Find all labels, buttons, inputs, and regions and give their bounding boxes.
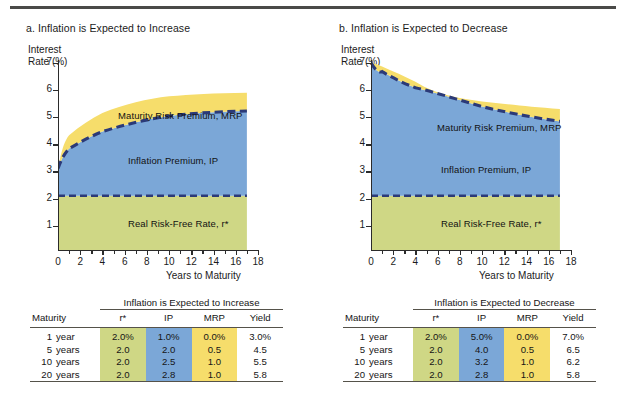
ylabel-3: 3 <box>38 164 52 175</box>
cell-mrp: 0.0% <box>192 328 238 344</box>
table-span-header-row: Inflation is Expected to Increase <box>30 297 283 310</box>
col-head-yield: Yield <box>550 310 596 326</box>
cell-yield: 5.5 <box>237 356 283 369</box>
panel-b-inflation-decrease: b. Inflation is Expected to Decrease Int… <box>313 0 626 419</box>
table-row: 5 years 2.0 2.0 0.5 4.5 <box>30 344 283 357</box>
cell-ip: 2.8 <box>146 369 192 382</box>
table-row: 1 year 2.0% 5.0% 0.0% 7.0% <box>343 328 596 344</box>
xlabel-18: 18 <box>252 256 263 267</box>
xtick-1 <box>69 250 70 254</box>
xtick-12 <box>191 250 192 255</box>
xtick-5 <box>114 250 115 254</box>
top-divider-rule <box>10 6 616 9</box>
panel-b-label-rf: Real Risk-Free Rate, r* <box>441 218 542 229</box>
cell-rstar: 2.0 <box>413 369 459 382</box>
xtick-9 <box>158 250 159 254</box>
xlabel-2: 2 <box>77 256 83 267</box>
panel-b-label-mrp: Maturity Risk Premium, MRP <box>437 122 562 133</box>
col-head-mrp: MRP <box>192 310 238 326</box>
table-row: 20 years 2.0 2.8 1.0 5.8 <box>343 369 596 382</box>
ytick-3 <box>53 171 58 172</box>
cell-maturity-unit: years <box>369 344 413 357</box>
cell-ip: 2.5 <box>146 356 192 369</box>
cell-yield: 7.0% <box>550 328 596 344</box>
ylabel-6: 6 <box>38 83 52 94</box>
ytick-4 <box>53 144 58 145</box>
xtick-13 <box>202 250 203 254</box>
ytick-6 <box>366 90 371 91</box>
ylabel-2: 2 <box>351 192 365 203</box>
ylabel-5: 5 <box>38 110 52 121</box>
xlabel-6: 6 <box>435 256 441 267</box>
xlabel-16: 16 <box>543 256 554 267</box>
cell-maturity-unit: years <box>56 344 100 357</box>
xlabel-12: 12 <box>499 256 510 267</box>
xlabel-12: 12 <box>186 256 197 267</box>
table-row: 5 years 2.0 4.0 0.5 6.5 <box>343 344 596 357</box>
ytick-4 <box>366 144 371 145</box>
xlabel-4: 4 <box>100 256 106 267</box>
col-head-yield: Yield <box>237 310 283 326</box>
xtick-4 <box>102 250 103 255</box>
xtick-17 <box>560 250 561 254</box>
cell-maturity-n: 1 <box>30 328 56 344</box>
yaxis-caption-line1: Interest <box>28 44 67 56</box>
cell-ip: 3.2 <box>459 356 505 369</box>
ylabel-4: 4 <box>38 137 52 148</box>
xlabel-8: 8 <box>457 256 463 267</box>
cell-rstar: 2.0 <box>413 356 459 369</box>
ytick-7 <box>366 63 371 64</box>
xtick-5 <box>427 250 428 254</box>
ytick-1 <box>53 226 58 227</box>
xtick-12 <box>504 250 505 255</box>
panel-b-label-ip: Inflation Premium, IP <box>441 164 531 175</box>
cell-maturity-n: 20 <box>30 369 56 382</box>
col-head-ip: IP <box>459 310 505 326</box>
xtick-15 <box>538 250 539 254</box>
xtick-2 <box>393 250 394 255</box>
xtick-14 <box>527 250 528 255</box>
cell-maturity-unit: years <box>56 369 100 382</box>
cell-maturity-unit: years <box>369 369 413 382</box>
ylabel-4: 4 <box>351 137 365 148</box>
ylabel-6: 6 <box>351 83 365 94</box>
ylabel-1: 1 <box>38 219 52 230</box>
cell-ip: 2.8 <box>459 369 505 382</box>
ytick-5 <box>366 117 371 118</box>
xlabel-6: 6 <box>122 256 128 267</box>
cell-maturity-unit: years <box>56 356 100 369</box>
col-head-mrp: MRP <box>504 310 550 326</box>
ytick-2 <box>366 199 371 200</box>
cell-yield: 5.8 <box>550 369 596 382</box>
panel-a-yaxis <box>58 60 59 250</box>
panel-a-label-mrp: Maturity Risk Premium, MRP <box>118 110 243 121</box>
panel-b-xaxis-name: Years to Maturity <box>479 270 554 281</box>
xtick-4 <box>415 250 416 255</box>
panel-a-inflation-increase: a. Inflation is Expected to Increase Int… <box>0 0 313 419</box>
cell-rstar: 2.0 <box>100 344 146 357</box>
cell-mrp: 0.0% <box>504 328 550 344</box>
xtick-8 <box>147 250 148 255</box>
cell-ip: 2.0 <box>146 344 192 357</box>
xtick-11 <box>180 250 181 254</box>
panel-a-label-ip: Inflation Premium, IP <box>128 155 218 166</box>
cell-maturity-n: 20 <box>343 369 369 382</box>
cell-mrp: 1.0 <box>192 369 238 382</box>
panel-b-chart: 7 6 5 4 3 2 1 0 2 4 6 8 10 <box>371 60 571 250</box>
xtick-15 <box>225 250 226 254</box>
cell-mrp: 1.0 <box>504 356 550 369</box>
xtick-10 <box>482 250 483 255</box>
cell-ip: 5.0% <box>459 328 505 344</box>
xlabel-8: 8 <box>144 256 150 267</box>
yaxis-caption-line1: Interest <box>341 44 380 56</box>
cell-ip: 1.0% <box>146 328 192 344</box>
xtick-1 <box>382 250 383 254</box>
cell-ip: 4.0 <box>459 344 505 357</box>
xtick-11 <box>493 250 494 254</box>
ylabel-1: 1 <box>351 219 365 230</box>
table-bottom-rule <box>343 382 596 389</box>
table-column-header-row: Maturity r* IP MRP Yield <box>30 310 283 326</box>
xtick-7 <box>449 250 450 254</box>
panel-a-table-wrap: Inflation is Expected to Increase Maturi… <box>30 297 283 388</box>
cell-maturity-n: 10 <box>30 356 56 369</box>
